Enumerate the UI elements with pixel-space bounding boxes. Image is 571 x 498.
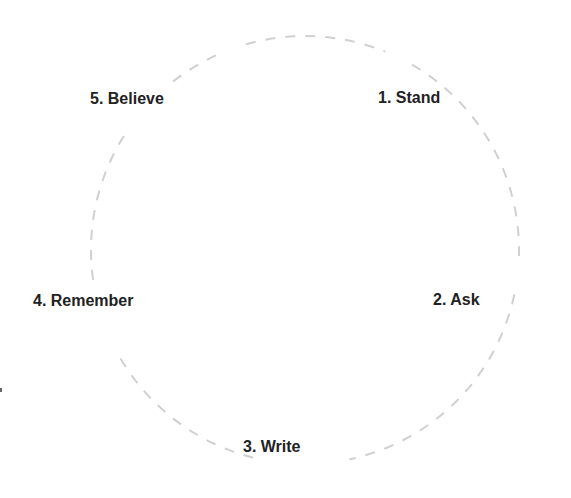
ring-arc [120, 357, 254, 458]
ring-arc [173, 52, 225, 82]
ring-arc [91, 133, 126, 279]
ring-arc [349, 294, 514, 459]
step-2-ask: 2. Ask [433, 291, 480, 309]
step-3-write: 3. Write [243, 438, 301, 456]
step-1-stand: 1. Stand [378, 89, 440, 107]
step-5-believe: 5. Believe [90, 90, 164, 108]
cycle-ring [0, 0, 571, 498]
step-4-remember: 4. Remember [33, 292, 134, 310]
edge-mark [0, 388, 2, 392]
ring-arc [246, 36, 385, 52]
